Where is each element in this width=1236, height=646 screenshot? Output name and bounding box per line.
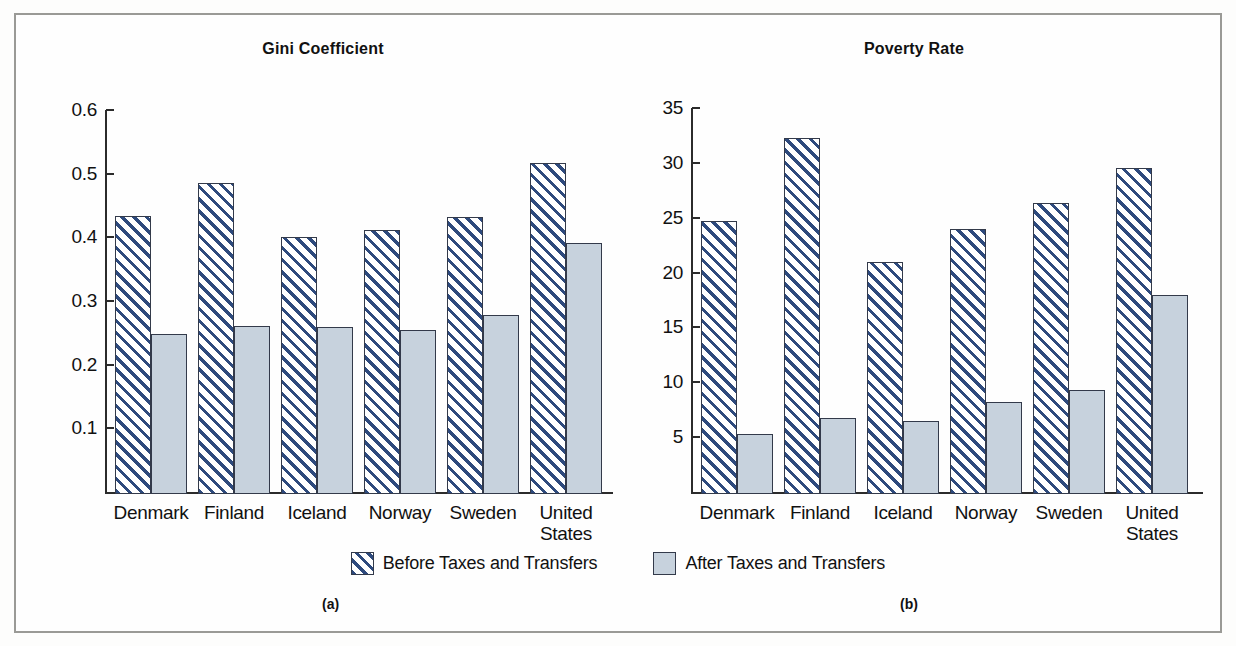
bar-before-taxes <box>784 138 820 494</box>
bar-before-taxes <box>530 163 566 494</box>
plot-area-gini: 0.60.50.40.30.20.1DenmarkFinlandIcelandN… <box>30 0 616 646</box>
plot-area-poverty: 3530252015105DenmarkFinlandIcelandNorway… <box>616 0 1212 646</box>
bar-before-taxes <box>364 230 400 494</box>
y-axis-line <box>691 108 693 492</box>
bar-before-taxes <box>867 262 903 494</box>
bar-before-taxes <box>701 221 737 494</box>
y-axis-tick-label: 0.6 <box>53 99 97 121</box>
bar-after-taxes <box>400 330 436 494</box>
bar-before-taxes <box>115 216 151 494</box>
legend-label-before: Before Taxes and Transfers <box>383 553 598 574</box>
x-axis-category-label: Norway <box>354 502 446 523</box>
y-axis-tick-label: 35 <box>651 97 683 119</box>
y-axis-tick <box>106 300 114 302</box>
x-axis-category-label: Sweden <box>1023 502 1115 523</box>
y-axis-tick-label: 25 <box>651 207 683 229</box>
y-axis-tick <box>692 272 700 274</box>
y-axis-tick-label: 20 <box>651 262 683 284</box>
x-axis-category-label: Sweden <box>437 502 529 523</box>
bar-before-taxes <box>1116 168 1152 494</box>
bar-before-taxes <box>1033 203 1069 494</box>
x-axis-category-label: United States <box>1106 502 1198 545</box>
y-axis-tick-label: 0.4 <box>53 226 97 248</box>
y-axis-tick-label: 15 <box>651 316 683 338</box>
bar-after-taxes <box>151 334 187 494</box>
y-axis-tick <box>106 109 114 111</box>
y-axis-tick <box>106 236 114 238</box>
y-axis-tick <box>692 381 700 383</box>
y-axis-tick-label: 30 <box>651 152 683 174</box>
bar-before-taxes <box>447 217 483 494</box>
y-axis-tick <box>692 107 700 109</box>
bar-after-taxes <box>903 421 939 494</box>
x-axis-category-label: Iceland <box>271 502 363 523</box>
x-axis-category-label: Iceland <box>857 502 949 523</box>
chart-panel-gini: Gini Coefficient 0.60.50.40.30.20.1Denma… <box>30 0 616 646</box>
chart-panel-poverty: Poverty Rate 3530252015105DenmarkFinland… <box>616 0 1212 646</box>
figure-page: Gini Coefficient 0.60.50.40.30.20.1Denma… <box>0 0 1236 646</box>
x-axis-category-label: Denmark <box>691 502 783 523</box>
bar-after-taxes <box>317 327 353 494</box>
y-axis-tick <box>692 217 700 219</box>
y-axis-tick <box>106 173 114 175</box>
bar-after-taxes <box>737 434 773 494</box>
bar-after-taxes <box>566 243 602 494</box>
y-axis-tick <box>106 427 114 429</box>
legend-swatch-hatched-icon <box>351 552 374 575</box>
bar-before-taxes <box>198 183 234 494</box>
x-axis-category-label: Denmark <box>105 502 197 523</box>
x-axis-category-label: Norway <box>940 502 1032 523</box>
y-axis-tick-label: 5 <box>651 426 683 448</box>
y-axis-tick-label: 0.5 <box>53 163 97 185</box>
bar-after-taxes <box>1152 295 1188 494</box>
x-axis-category-label: Finland <box>774 502 866 523</box>
legend-item-after: After Taxes and Transfers <box>653 552 885 575</box>
y-axis-tick-label: 10 <box>651 371 683 393</box>
y-axis-tick <box>106 364 114 366</box>
y-axis-tick-label: 0.2 <box>53 354 97 376</box>
bar-after-taxes <box>234 326 270 494</box>
chart-legend: Before Taxes and Transfers After Taxes a… <box>0 552 1236 575</box>
bar-before-taxes <box>950 229 986 494</box>
y-axis-tick-label: 0.1 <box>53 417 97 439</box>
x-axis-category-label: United States <box>520 502 612 545</box>
y-axis-tick <box>692 162 700 164</box>
x-axis-category-label: Finland <box>188 502 280 523</box>
panel-caption-a: (a) <box>322 596 339 612</box>
y-axis-tick <box>692 326 700 328</box>
bar-after-taxes <box>820 418 856 494</box>
legend-item-before: Before Taxes and Transfers <box>351 552 598 575</box>
bar-before-taxes <box>281 237 317 494</box>
y-axis-tick <box>692 436 700 438</box>
y-axis-tick-label: 0.3 <box>53 290 97 312</box>
bar-after-taxes <box>986 402 1022 494</box>
bar-after-taxes <box>483 315 519 494</box>
legend-swatch-solid-icon <box>653 552 676 575</box>
bar-after-taxes <box>1069 390 1105 494</box>
legend-label-after: After Taxes and Transfers <box>685 553 885 574</box>
panel-caption-b: (b) <box>900 596 918 612</box>
